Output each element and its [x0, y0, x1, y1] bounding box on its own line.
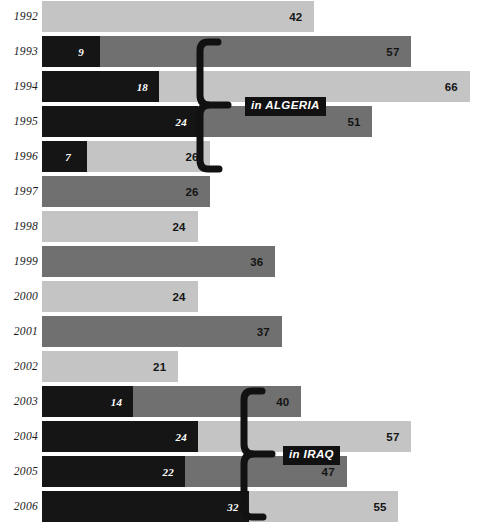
- total-value: 51: [347, 116, 360, 128]
- bar-row: 20042457: [0, 421, 479, 452]
- highlight-segment: [42, 36, 100, 67]
- total-value: 42: [289, 11, 302, 23]
- iraq-label: in IRAQ: [283, 446, 340, 465]
- total-value: 57: [386, 46, 399, 58]
- bar-row: 200221: [0, 351, 479, 382]
- year-label: 1994: [0, 80, 38, 92]
- bar-row: 200024: [0, 281, 479, 312]
- bar-row: 20063255: [0, 491, 479, 522]
- algeria-label: in ALGERIA: [245, 97, 326, 116]
- bar-row: 20052247: [0, 456, 479, 487]
- segment-value: 7: [65, 151, 71, 163]
- highlight-segment: [42, 106, 198, 137]
- year-label: 1999: [0, 255, 38, 267]
- year-label: 2003: [0, 395, 38, 407]
- bar-row: 200137: [0, 316, 479, 347]
- total-value: 24: [173, 291, 186, 303]
- total-value: 55: [373, 501, 386, 513]
- highlight-segment: [42, 491, 249, 522]
- year-label: 2006: [0, 500, 38, 512]
- year-label: 2001: [0, 325, 38, 337]
- year-label: 2000: [0, 290, 38, 302]
- total-value: 36: [250, 256, 263, 268]
- total-value: 21: [153, 361, 166, 373]
- total-value: 24: [173, 221, 186, 233]
- segment-value: 32: [227, 501, 238, 513]
- total-bar: [42, 246, 275, 277]
- year-label: 1993: [0, 45, 38, 57]
- year-label: 2002: [0, 360, 38, 372]
- segment-value: 24: [176, 431, 187, 443]
- total-bar: [42, 316, 282, 347]
- total-value: 47: [322, 466, 335, 478]
- highlight-segment: [42, 421, 198, 452]
- bar-row: 199824: [0, 211, 479, 242]
- total-value: 26: [185, 186, 198, 198]
- year-label: 1992: [0, 10, 38, 22]
- bar-row: 1996726: [0, 141, 479, 172]
- year-label: 1997: [0, 185, 38, 197]
- bar-row: 199242: [0, 1, 479, 32]
- total-value: 66: [445, 81, 458, 93]
- bar-row: 20031440: [0, 386, 479, 417]
- bar-row: 19952451: [0, 106, 479, 137]
- year-label: 1996: [0, 150, 38, 162]
- year-label: 1995: [0, 115, 38, 127]
- bar-row: 199726: [0, 176, 479, 207]
- segment-value: 24: [176, 116, 187, 128]
- total-bar: [42, 1, 314, 32]
- bar-row: 1993957: [0, 36, 479, 67]
- total-value: 26: [185, 151, 198, 163]
- year-label: 1998: [0, 220, 38, 232]
- segment-value: 9: [78, 46, 84, 58]
- year-label: 2005: [0, 465, 38, 477]
- segment-value: 14: [111, 396, 122, 408]
- bar-row: 199936: [0, 246, 479, 277]
- bar-chart: 1992421993957199418661995245119967261997…: [0, 0, 479, 526]
- segment-value: 18: [137, 81, 148, 93]
- total-value: 37: [257, 326, 270, 338]
- bar-row: 19941866: [0, 71, 479, 102]
- segment-value: 22: [163, 466, 174, 478]
- year-label: 2004: [0, 430, 38, 442]
- total-value: 57: [386, 431, 399, 443]
- total-value: 40: [276, 396, 289, 408]
